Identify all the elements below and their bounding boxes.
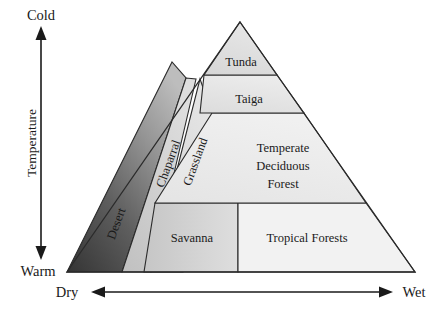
biome-pyramid-figure: Tunda Taiga Temperate Deciduous Forest S… (0, 0, 437, 309)
axis-label-wet: Wet (403, 284, 426, 300)
label-temperate-line-3: Forest (267, 177, 299, 191)
pyramid-svg: Tunda Taiga Temperate Deciduous Forest S… (0, 0, 437, 309)
axis-label-cold: Cold (27, 7, 56, 23)
arrow-down-icon (36, 246, 47, 260)
axis-label-dry: Dry (56, 284, 79, 300)
arrow-right-icon (379, 287, 393, 298)
region-temperate-deciduous-forest (155, 113, 366, 203)
arrow-up-icon (36, 26, 47, 40)
arrow-left-icon (91, 287, 105, 298)
label-tropical-forests: Tropical Forests (266, 231, 347, 245)
moisture-axis: Dry Wet (56, 284, 426, 300)
axis-label-warm: Warm (20, 263, 56, 279)
label-temperate-line-1: Temperate (257, 141, 310, 155)
label-tunda: Tunda (225, 55, 257, 69)
label-temperate-line-2: Deciduous (256, 159, 310, 173)
axis-label-temperature: Temperature (24, 109, 39, 177)
temperature-axis: Cold Warm Temperature (20, 7, 56, 279)
label-taiga: Taiga (235, 92, 263, 106)
label-savanna: Savanna (171, 231, 214, 245)
